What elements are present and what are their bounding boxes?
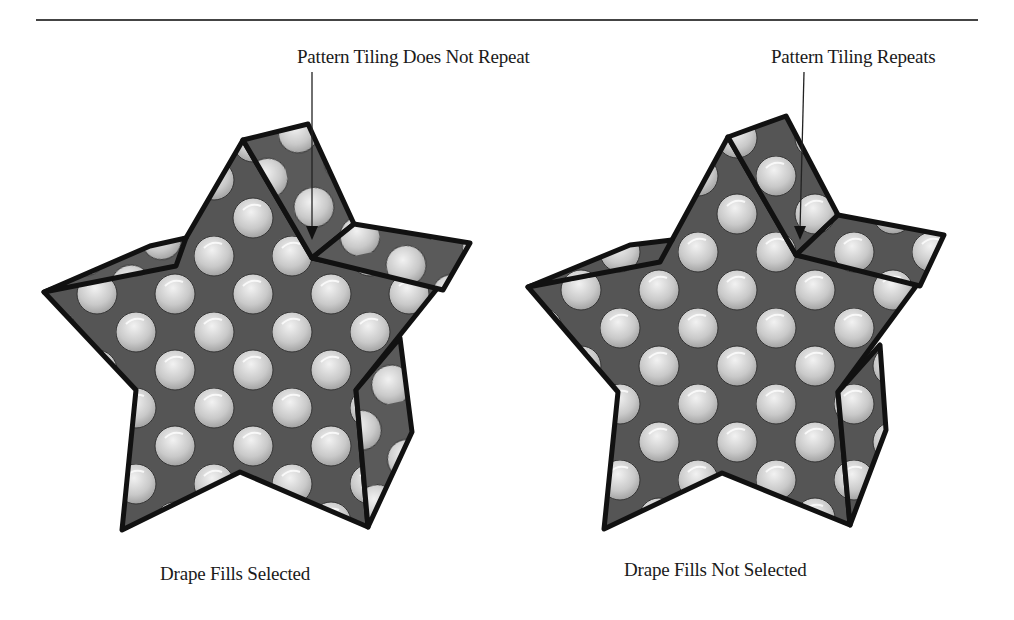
star-left-drape-fills-selected	[44, 124, 470, 530]
figure-canvas	[0, 0, 1014, 620]
star-right-drape-fills-not-selected	[528, 116, 944, 529]
